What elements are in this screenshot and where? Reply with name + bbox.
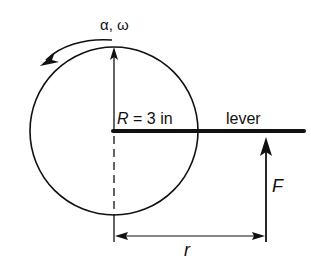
force-label: F [272,176,284,196]
rotation-label: α, ω [100,16,129,33]
radius-label: R = 3 in [117,110,173,127]
radius-value: = 3 in [129,110,173,127]
lever-label: lever [226,110,261,127]
radius-var: R [117,110,129,127]
lever-diagram: α, ω R = 3 in lever F r [0,0,311,262]
distance-label: r [184,240,191,260]
rotation-arrowhead-icon [40,52,59,66]
rotation-arrow-icon [46,40,112,60]
